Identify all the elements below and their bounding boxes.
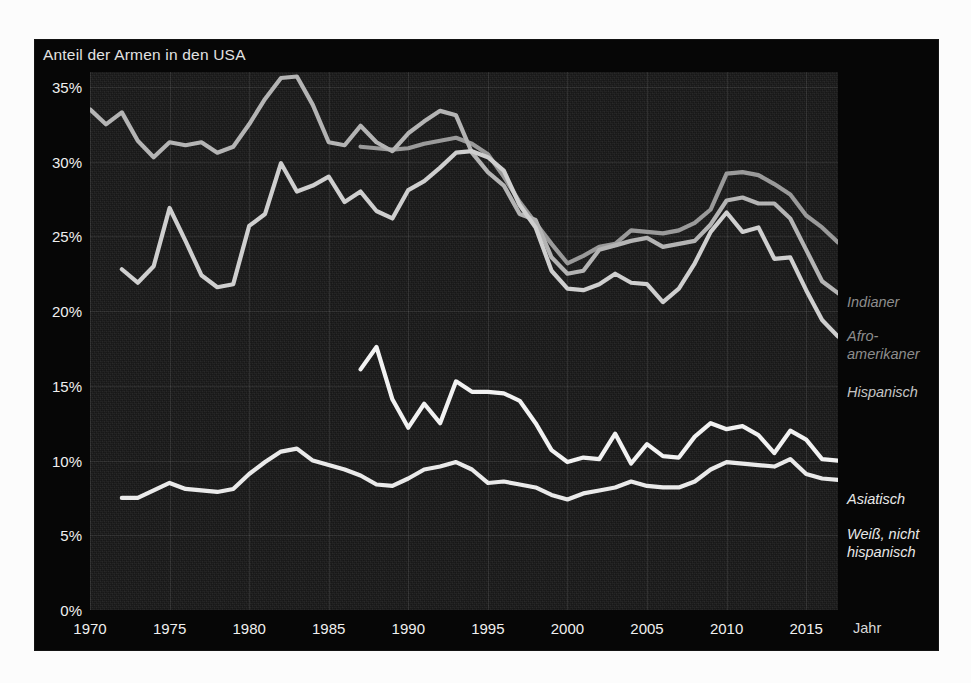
x-tick-label: 2015: [789, 620, 822, 637]
x-tick-label: 1985: [312, 620, 345, 637]
series-line: [122, 449, 838, 500]
legend-label: Weiß, nichthispanisch: [847, 525, 919, 561]
legend-label: Asiatisch: [847, 490, 905, 508]
y-tick-label: 10%: [52, 452, 82, 469]
chart-page: Anteil der Armen in den USA 0%5%10%15%20…: [0, 0, 971, 683]
plot-area: [90, 72, 838, 610]
y-tick-label: 0%: [60, 602, 82, 619]
legend-label-line: hispanisch: [847, 543, 919, 561]
legend-label: Hispanisch: [847, 383, 918, 401]
x-tick-label: 2010: [710, 620, 743, 637]
y-tick-label: 5%: [60, 527, 82, 544]
legend-label-line: Weiß, nicht: [847, 525, 919, 543]
y-tick-label: 25%: [52, 228, 82, 245]
series-line: [361, 347, 838, 464]
y-tick-label: 15%: [52, 377, 82, 394]
series-lines: [90, 72, 838, 610]
x-tick-label: 1970: [73, 620, 106, 637]
chart-title: Anteil der Armen in den USA: [43, 46, 246, 64]
legend-label-line: Asiatisch: [847, 490, 905, 508]
legend-label-line: Hispanisch: [847, 383, 918, 401]
x-tick-label: 1990: [392, 620, 425, 637]
legend-label: Indianer: [847, 293, 899, 311]
x-tick-label: 2005: [630, 620, 663, 637]
y-axis: 0%5%10%15%20%25%30%35%: [35, 72, 82, 610]
x-tick-label: 1995: [471, 620, 504, 637]
y-tick-label: 35%: [52, 78, 82, 95]
legend-label-line: Indianer: [847, 293, 899, 311]
series-line: [122, 151, 838, 336]
x-axis-title: Jahr: [853, 620, 881, 636]
legend-label: Afro-amerikaner: [847, 327, 920, 363]
legend-label-line: Afro-: [847, 327, 920, 345]
series-line: [90, 76, 838, 293]
x-tick-label: 2000: [551, 620, 584, 637]
y-tick-label: 20%: [52, 303, 82, 320]
x-tick-label: 1980: [232, 620, 265, 637]
x-tick-label: 1975: [153, 620, 186, 637]
y-tick-label: 30%: [52, 153, 82, 170]
legend-label-line: amerikaner: [847, 345, 920, 363]
chart-panel: Anteil der Armen in den USA 0%5%10%15%20…: [35, 40, 938, 650]
